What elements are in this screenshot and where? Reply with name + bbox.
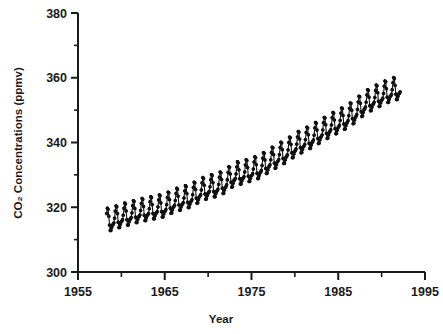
data-point-dot: [333, 119, 335, 121]
data-point-dot: [252, 173, 254, 175]
data-point-dot: [143, 214, 145, 216]
data-point-dot: [335, 132, 337, 134]
data-point-dot: [232, 182, 234, 184]
data-point-dot: [182, 201, 184, 203]
data-point-dot: [205, 198, 207, 200]
data-point-dot: [293, 153, 295, 155]
x-tick-label: 1965: [151, 285, 179, 299]
data-point-dot: [272, 147, 274, 149]
data-point-dot: [147, 212, 149, 214]
data-point-dot: [292, 156, 294, 158]
data-point-dot: [208, 190, 210, 192]
data-point-dot: [391, 89, 393, 91]
data-point-dot: [148, 208, 150, 210]
data-point-dot: [157, 206, 159, 208]
data-point-dot: [197, 202, 199, 204]
data-point-dot: [122, 214, 124, 216]
data-point-dot: [376, 85, 378, 87]
data-point-dot: [243, 176, 245, 178]
data-point-dot: [359, 102, 361, 104]
data-point-dot: [168, 199, 170, 201]
data-point-dot: [168, 192, 170, 194]
data-point-dot: [175, 192, 177, 194]
data-point-dot: [127, 224, 129, 226]
data-point-dot: [296, 143, 298, 145]
data-point-dot: [341, 108, 343, 110]
data-point-dot: [270, 159, 272, 161]
data-point-dot: [324, 117, 326, 119]
data-point-dot: [356, 108, 358, 110]
data-point-dot: [399, 91, 401, 93]
data-point-dot: [107, 208, 109, 210]
data-point-dot: [246, 166, 248, 168]
data-point-dot: [344, 128, 346, 130]
data-point-dot: [327, 137, 329, 139]
data-point-dot: [305, 131, 307, 133]
data-point-dot: [249, 180, 251, 182]
data-point-dot: [280, 142, 282, 144]
data-point-dot: [270, 151, 272, 153]
data-point-dot: [183, 197, 185, 199]
data-point-dot: [313, 134, 315, 136]
data-point-dot: [218, 176, 220, 178]
data-point-dot: [382, 92, 384, 94]
data-point-dot: [247, 175, 249, 177]
data-point-dot: [203, 184, 205, 186]
data-point-dot: [393, 77, 395, 79]
data-point-dot: [272, 153, 274, 155]
data-point-dot: [269, 164, 271, 166]
data-point-dot: [266, 172, 268, 174]
data-point-dot: [316, 129, 318, 131]
data-point-dot: [332, 112, 334, 114]
data-point-dot: [123, 207, 125, 209]
data-point-dot: [275, 167, 277, 169]
data-point-dot: [192, 186, 194, 188]
y-axis-title: CO₂ Concentrations (ppmv): [12, 67, 24, 219]
data-point-dot: [278, 154, 280, 156]
data-point-dot: [254, 157, 256, 159]
data-point-dot: [315, 122, 317, 124]
y-tick-label: 320: [46, 201, 67, 215]
data-point-dot: [353, 119, 355, 121]
data-point-dot: [149, 201, 151, 203]
data-point-dot: [279, 146, 281, 148]
data-point-dot: [373, 101, 375, 103]
x-axis-tick-labels: 19551965197519851995: [64, 285, 439, 299]
data-point-dot: [287, 149, 289, 151]
data-point-dot: [278, 158, 280, 160]
data-point-dot: [322, 129, 324, 131]
data-point-dot: [174, 199, 176, 201]
data-point-dot: [200, 189, 202, 191]
data-point-dot: [184, 190, 186, 192]
data-point-dot: [325, 124, 327, 126]
data-point-dot: [281, 149, 283, 151]
data-point-dot: [151, 204, 153, 206]
data-point-dot: [368, 96, 370, 98]
data-point-dot: [194, 188, 196, 190]
data-point-dot: [142, 198, 144, 200]
data-point-dot: [365, 101, 367, 103]
data-point-dot: [223, 192, 225, 194]
data-point-dot: [342, 114, 344, 116]
data-point-dot: [212, 181, 214, 183]
data-point-dot: [330, 124, 332, 126]
x-tick-label: 1975: [238, 285, 266, 299]
data-point-dot: [351, 109, 353, 111]
data-point-dot: [338, 124, 340, 126]
data-point-dot: [140, 202, 142, 204]
data-point-dot: [226, 179, 228, 181]
data-point-dot: [361, 115, 363, 117]
data-point-dot: [290, 143, 292, 145]
data-point-dot: [235, 173, 237, 175]
data-point-dot: [283, 162, 285, 164]
data-point-dot: [229, 173, 231, 175]
co2-series-line: [107, 78, 401, 231]
data-point-dot: [113, 217, 115, 219]
data-point-dot: [370, 109, 372, 111]
data-point-dot: [214, 196, 216, 198]
data-point-dot: [244, 164, 246, 166]
data-point-dot: [225, 184, 227, 186]
data-point-dot: [171, 212, 173, 214]
data-point-dot: [153, 218, 155, 220]
data-point-dot: [108, 224, 110, 226]
